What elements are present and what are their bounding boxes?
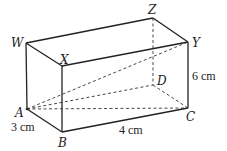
- label-X: X: [59, 53, 69, 67]
- edge-AD: [27, 85, 153, 109]
- dimension-width: 3 cm: [11, 120, 35, 134]
- edge-DC: [153, 85, 188, 108]
- edge-XY: [62, 42, 188, 66]
- label-Y: Y: [192, 36, 201, 50]
- cuboid-diagram: Z W X Y D A C B 6 cm 3 cm 4 cm: [0, 0, 227, 151]
- edge-WZ: [26, 18, 153, 43]
- edge-WX: [26, 43, 62, 66]
- vertex-A-dot: [26, 108, 29, 111]
- label-W: W: [11, 36, 25, 50]
- label-Z: Z: [147, 3, 157, 17]
- dimension-height: 6 cm: [192, 69, 216, 83]
- edge-ZY: [153, 18, 188, 42]
- label-A: A: [14, 106, 24, 120]
- label-B: B: [57, 136, 67, 150]
- edge-AC: [27, 108, 188, 109]
- label-C: C: [186, 110, 195, 124]
- edge-WA: [26, 43, 27, 109]
- label-D: D: [156, 74, 167, 88]
- dimension-length: 4 cm: [119, 123, 143, 137]
- hidden-edges: [27, 18, 188, 109]
